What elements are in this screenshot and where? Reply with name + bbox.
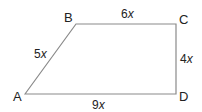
vertex-label-b: B bbox=[64, 10, 73, 25]
side-ab-var: x bbox=[40, 47, 48, 61]
vertex-label-d: D bbox=[179, 89, 188, 104]
vertex-label-c: C bbox=[179, 12, 188, 27]
vertex-label-a: A bbox=[13, 89, 22, 104]
side-label-ab: 5x bbox=[34, 47, 48, 61]
side-label-ad: 9x bbox=[92, 98, 106, 112]
trapezoid-diagram: A B C D 6x 5x 4x 9x bbox=[0, 0, 202, 112]
side-bc-var: x bbox=[127, 7, 135, 21]
side-ad-var: x bbox=[98, 98, 106, 112]
side-cd-var: x bbox=[186, 52, 194, 66]
side-label-cd: 4x bbox=[180, 52, 194, 66]
side-label-bc: 6x bbox=[121, 7, 135, 21]
trapezoid-shape bbox=[25, 24, 176, 94]
